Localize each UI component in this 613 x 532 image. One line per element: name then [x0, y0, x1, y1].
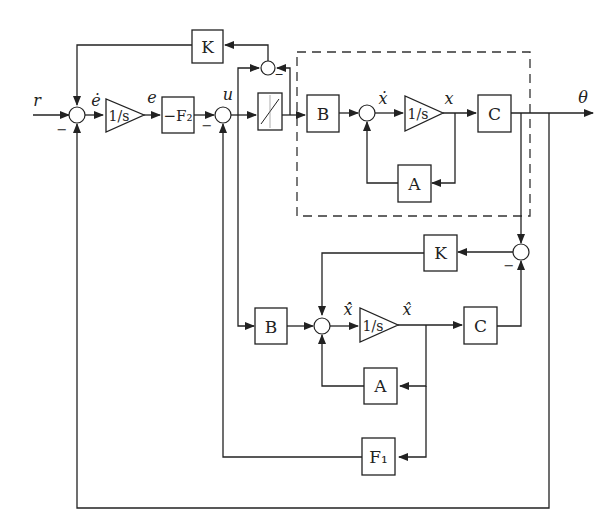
signal-xhat-dot: x̂̇: [343, 300, 352, 319]
xhat-to-a-observer-arrow: [400, 325, 426, 386]
summer-control: [215, 107, 231, 123]
block-diagram: r − ė 1/s e −F₂ − u − K B ẋ 1: [0, 0, 613, 532]
signal-x-dot: ẋ: [378, 89, 387, 108]
block-neg-f2-label: −F₂: [164, 107, 193, 125]
x-to-a-plant-arrow: [432, 113, 455, 183]
signal-u: u: [223, 85, 233, 104]
minus-sign: −: [202, 118, 213, 133]
a-observer-to-summer-arrow: [322, 335, 364, 386]
block-a-plant-label: A: [407, 174, 421, 194]
minus-sign: −: [274, 68, 283, 81]
integrator-plant-label: 1/s: [408, 106, 429, 122]
f1-to-summer-control-arrow: [223, 124, 362, 457]
signal-e: e: [147, 88, 156, 107]
u-to-antiwindup-arrow: [238, 68, 259, 115]
block-a-observer-label: A: [373, 376, 387, 396]
integrator-1-label: 1/s: [109, 108, 130, 124]
minus-sign: −: [504, 258, 515, 273]
signal-xhat: x̂: [402, 300, 411, 319]
minus-sign: −: [57, 122, 68, 137]
summer-antiwindup: [261, 61, 275, 75]
block-f1-label: F₁: [369, 447, 388, 467]
saturation-block: [258, 93, 282, 130]
a-plant-to-summer-arrow: [367, 122, 398, 183]
block-c-observer-label: C: [474, 316, 487, 336]
u-to-b-observer-arrow: [238, 115, 254, 326]
xhat-to-f1-arrow: [399, 386, 426, 457]
signal-r: r: [33, 91, 42, 110]
summer-observer: [314, 318, 330, 334]
block-b-plant-label: B: [317, 104, 330, 124]
antiwindup-to-k-arrow: [225, 45, 268, 61]
summer-error: [69, 107, 85, 123]
summer-observer-error: [513, 244, 529, 260]
summer-plant: [359, 105, 375, 121]
signal-theta: θ: [578, 88, 588, 107]
block-c-plant-label: C: [488, 104, 501, 124]
signal-e-dot: ė: [91, 91, 100, 110]
block-k-observer-label: K: [434, 243, 447, 263]
integrator-observer-label: 1/s: [363, 318, 384, 334]
signal-x: x: [444, 89, 453, 108]
block-k-top-label: K: [201, 37, 214, 57]
block-b-observer-label: B: [265, 317, 278, 337]
